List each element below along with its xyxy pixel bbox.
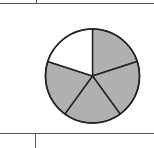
table-bottom-divider [35, 133, 36, 148]
fraction-pie-chart [0, 0, 154, 148]
table-bottom-border [0, 133, 154, 134]
pie [46, 29, 140, 123]
